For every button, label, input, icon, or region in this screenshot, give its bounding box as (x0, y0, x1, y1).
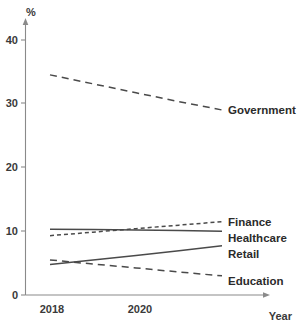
y-tick-label-20: 20 (6, 161, 18, 173)
series-line-government (50, 75, 222, 110)
series-layer (50, 75, 222, 276)
y-axis-arrow-icon (23, 18, 29, 25)
series-line-retail (50, 246, 222, 265)
y-axis-ticks (21, 40, 26, 295)
series-line-finance (50, 222, 222, 236)
series-label-government: Government (228, 104, 296, 116)
series-label-healthcare: Healthcare (228, 232, 287, 244)
y-tick-label-30: 30 (6, 97, 18, 109)
y-tick-label-40: 40 (6, 34, 18, 46)
line-chart: 40 30 20 10 0 % Year 2018 2020 Governmen… (0, 0, 298, 326)
x-axis-arrow-icon (263, 292, 270, 298)
y-tick-label-10: 10 (6, 225, 18, 237)
series-label-finance: Finance (228, 216, 271, 228)
series-label-education: Education (228, 275, 284, 287)
x-axis (26, 292, 271, 298)
series-line-education (50, 260, 222, 276)
x-tick-label-2020: 2020 (128, 303, 152, 315)
x-tick-label-2018: 2018 (40, 303, 64, 315)
series-line-healthcare (50, 229, 222, 231)
chart-canvas: 40 30 20 10 0 % Year 2018 2020 Governmen… (0, 0, 298, 326)
y-axis (23, 18, 29, 295)
series-label-retail: Retail (228, 248, 259, 260)
y-axis-title: % (26, 6, 36, 18)
y-tick-label-0: 0 (12, 289, 18, 301)
x-axis-title: Year (269, 310, 293, 322)
